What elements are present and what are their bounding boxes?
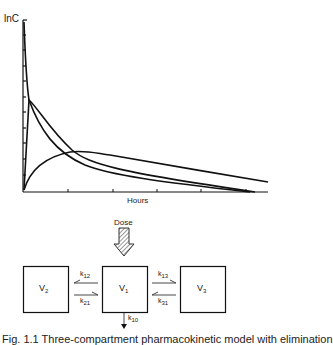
curve-central — [24, 22, 250, 192]
dose-arrow-icon — [114, 228, 134, 256]
rate-k10-label: k10 — [128, 314, 138, 323]
figure-caption: Fig. 1.1 Three-compartment pharmacokinet… — [2, 333, 333, 345]
dose-label: Dose — [114, 218, 133, 227]
rate-k12-label: k12 — [80, 270, 90, 279]
rate-k13-label: k13 — [158, 270, 168, 279]
compartment-v1-label: V1 — [119, 283, 128, 294]
y-axis-label: lnC — [4, 13, 19, 24]
rate-k31-label: k31 — [158, 297, 168, 306]
x-axis-label: Hours — [127, 196, 148, 205]
curve-peripheral-slow — [24, 151, 268, 190]
rate-k21-label: k21 — [80, 297, 90, 306]
compartment-v3-label: V3 — [197, 283, 206, 294]
curves — [24, 22, 268, 192]
compartment-v2-label: V2 — [39, 283, 48, 294]
